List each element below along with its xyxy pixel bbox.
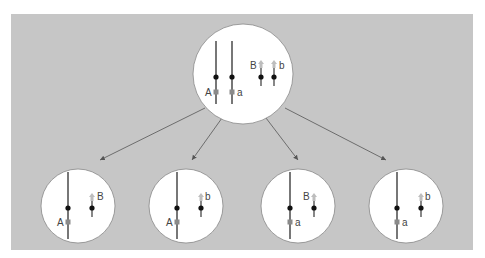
meiosis-diagram: A a B b A B A b a (0, 0, 485, 258)
svg-text:A: A (166, 217, 173, 228)
centromere (213, 74, 218, 79)
svg-text:b: b (425, 191, 431, 202)
arrow-1 (100, 108, 205, 160)
gamete-cell-4: a b (369, 169, 443, 243)
svg-text:B: B (303, 191, 310, 202)
gene-a-marker (230, 90, 235, 95)
centromere (229, 74, 234, 79)
centromere (271, 74, 276, 79)
gamete-cell-3: a B (261, 169, 335, 243)
gamete-cell-1: A B (41, 169, 115, 243)
gene-A-marker (214, 90, 219, 95)
arrow-3 (266, 118, 298, 160)
svg-text:B: B (97, 191, 104, 202)
svg-text:a: a (402, 217, 408, 228)
label-a: a (237, 87, 243, 98)
arrow-2 (192, 118, 222, 160)
gamete-cell-2: A b (149, 169, 223, 243)
svg-text:a: a (295, 217, 301, 228)
label-b: b (279, 60, 285, 71)
arrow-4 (285, 108, 386, 160)
centromere (258, 74, 263, 79)
svg-text:A: A (57, 217, 64, 228)
parent-cell: A a B b (193, 24, 293, 124)
label-A: A (205, 87, 212, 98)
svg-text:b: b (205, 191, 211, 202)
label-B: B (250, 60, 257, 71)
